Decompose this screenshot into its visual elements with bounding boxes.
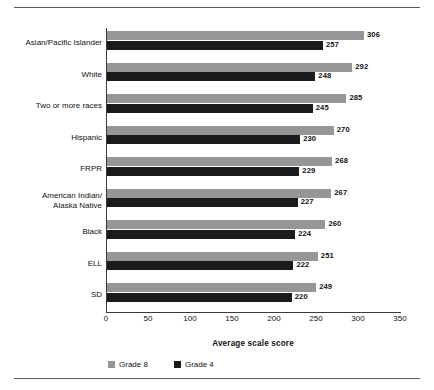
bar-group: 292248 xyxy=(107,60,401,92)
bar-group: 260224 xyxy=(107,217,401,249)
x-tick-label: 200 xyxy=(267,314,280,323)
bar-value-label: 245 xyxy=(316,103,329,112)
bar-value-label: 285 xyxy=(349,93,362,102)
chart-legend: Grade 8Grade 4 xyxy=(106,360,402,369)
bar-g4 xyxy=(107,261,293,270)
bar-g8 xyxy=(107,189,331,198)
category-axis-labels: Asian/Pacific IslanderWhiteTwo or more r… xyxy=(0,28,102,312)
bar-group: 270230 xyxy=(107,123,401,155)
category-label: Black xyxy=(0,227,102,237)
x-tick-label: 0 xyxy=(104,314,108,323)
legend-label: Grade 8 xyxy=(119,360,148,369)
bar-value-label: 292 xyxy=(355,62,368,71)
x-tick-label: 300 xyxy=(351,314,364,323)
bar-value-label: 224 xyxy=(298,229,311,238)
bar-value-label: 251 xyxy=(321,251,334,260)
bar-g4 xyxy=(107,135,300,144)
bar-g8 xyxy=(107,252,318,261)
bar-value-label: 257 xyxy=(326,40,339,49)
category-label: Two or more races xyxy=(0,101,102,111)
bar-g4 xyxy=(107,104,313,113)
bar-g8 xyxy=(107,63,352,72)
bar-value-label: 306 xyxy=(367,30,380,39)
bar-g8 xyxy=(107,126,334,135)
bar-g4 xyxy=(107,198,298,207)
category-label: FRPR xyxy=(0,164,102,174)
category-label: SD xyxy=(0,290,102,300)
legend-swatch-icon xyxy=(174,361,181,368)
x-tick-label: 250 xyxy=(309,314,322,323)
bar-value-label: 220 xyxy=(295,292,308,301)
x-axis-ticks: 050100150200250300350 xyxy=(106,314,400,328)
bar-g8 xyxy=(107,94,346,103)
bar-group: 306257 xyxy=(107,28,401,60)
plot-area: 3062572922482852452702302682292672272602… xyxy=(106,28,401,313)
x-tick-label: 150 xyxy=(225,314,238,323)
legend-label: Grade 4 xyxy=(185,360,214,369)
category-label: Asian/Pacific Islander xyxy=(0,38,102,48)
bar-g8 xyxy=(107,220,325,229)
bar-value-label: 249 xyxy=(319,282,332,291)
bar-value-label: 267 xyxy=(334,188,347,197)
bar-g4 xyxy=(107,167,299,176)
bar-value-label: 222 xyxy=(296,260,309,269)
bar-group: 251222 xyxy=(107,249,401,281)
category-label: White xyxy=(0,70,102,80)
x-tick-label: 350 xyxy=(393,314,406,323)
category-label: American Indian/ Alaska Native xyxy=(0,191,102,210)
bar-g4 xyxy=(107,230,295,239)
bar-g8 xyxy=(107,157,332,166)
x-tick-label: 100 xyxy=(183,314,196,323)
top-divider-rule xyxy=(14,7,420,8)
bar-g4 xyxy=(107,41,323,50)
legend-item[interactable]: Grade 8 xyxy=(108,360,148,369)
bar-group: 268229 xyxy=(107,154,401,186)
chart-figure: Asian/Pacific IslanderWhiteTwo or more r… xyxy=(0,0,434,390)
bar-value-label: 270 xyxy=(337,125,350,134)
category-label: ELL xyxy=(0,259,102,269)
x-tick-label: 50 xyxy=(144,314,153,323)
bottom-divider-rule xyxy=(14,378,420,379)
bar-value-label: 230 xyxy=(303,134,316,143)
bar-g4 xyxy=(107,72,315,81)
legend-item[interactable]: Grade 4 xyxy=(174,360,214,369)
bar-value-label: 260 xyxy=(328,219,341,228)
bar-rows: 3062572922482852452702302682292672272602… xyxy=(107,28,401,312)
x-axis-title: Average scale score xyxy=(106,339,400,348)
bar-g4 xyxy=(107,293,292,302)
bar-group: 249220 xyxy=(107,280,401,312)
bar-group: 285245 xyxy=(107,91,401,123)
category-label: Hispanic xyxy=(0,133,102,143)
bar-value-label: 248 xyxy=(318,71,331,80)
bar-g8 xyxy=(107,283,316,292)
legend-swatch-icon xyxy=(108,361,115,368)
bar-value-label: 227 xyxy=(301,197,314,206)
bar-group: 267227 xyxy=(107,186,401,218)
bar-value-label: 229 xyxy=(302,166,315,175)
bar-value-label: 268 xyxy=(335,156,348,165)
